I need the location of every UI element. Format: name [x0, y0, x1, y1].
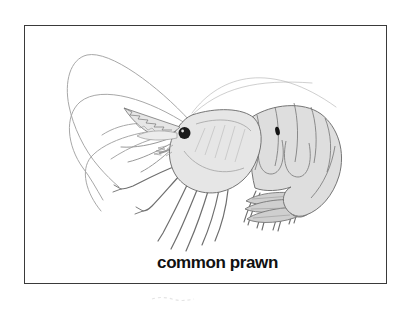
- caption: common prawn: [36, 253, 399, 273]
- eye: [179, 127, 191, 139]
- walking-leg: [143, 174, 181, 211]
- walking-leg: [171, 185, 199, 249]
- carapace-shell: [169, 110, 261, 193]
- maxilliped-strand: [141, 149, 172, 172]
- caption-label: common prawn: [157, 253, 278, 272]
- walking-leg: [121, 166, 176, 189]
- leg-claw: [135, 207, 143, 214]
- page: common prawn: [0, 0, 406, 310]
- walking-leg: [158, 181, 189, 241]
- walking-leg: [186, 188, 209, 251]
- scan-artifact: [152, 298, 194, 301]
- leg-claw: [113, 185, 121, 192]
- carapace: [166, 110, 261, 193]
- eye-highlight: [181, 130, 184, 133]
